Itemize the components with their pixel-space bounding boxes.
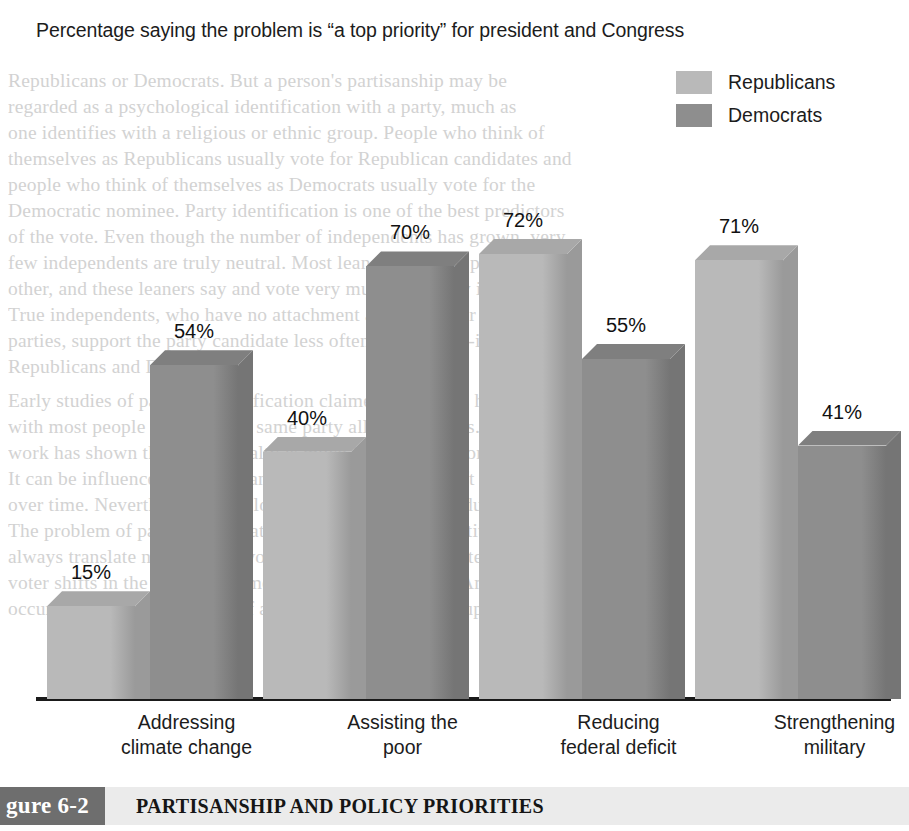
bar-democrats-3 xyxy=(798,446,886,699)
category-label-line: poor xyxy=(303,735,503,760)
bar-value-label: 72% xyxy=(463,209,583,232)
bar-front-face xyxy=(366,266,454,699)
category-label-line: climate change xyxy=(87,735,287,760)
bar-chart-plot-area: 15%40%72%71%54%70%55%41% xyxy=(0,0,909,705)
bar-side-face xyxy=(454,251,469,699)
category-label-line: Assisting the xyxy=(303,710,503,735)
bar-republicans-2 xyxy=(479,254,567,699)
bar-top-face xyxy=(582,344,685,359)
bar-top-face xyxy=(263,437,366,452)
bar-democrats-1 xyxy=(366,266,454,699)
category-label-line: Strengthening xyxy=(735,710,909,735)
bar-value-label: 41% xyxy=(782,401,902,424)
bar-republicans-3 xyxy=(695,260,783,699)
figure-number-tag: gure 6-2 xyxy=(0,787,105,825)
category-label-2: Reducingfederal deficit xyxy=(519,710,719,760)
bar-value-label: 71% xyxy=(679,215,799,238)
category-label-line: Addressing xyxy=(87,710,287,735)
bar-front-face xyxy=(695,260,783,699)
bar-top-face xyxy=(47,591,150,606)
bar-top-face xyxy=(150,350,253,365)
category-label-0: Addressingclimate change xyxy=(87,710,287,760)
bar-top-face xyxy=(479,239,582,254)
category-label-1: Assisting thepoor xyxy=(303,710,503,760)
bar-front-face xyxy=(479,254,567,699)
category-label-line: Reducing xyxy=(519,710,719,735)
bar-side-face xyxy=(135,591,150,699)
bar-front-face xyxy=(150,365,238,699)
figure-caption-title: PARTISANSHIP AND POLICY PRIORITIES xyxy=(136,787,544,825)
bar-side-face xyxy=(783,245,798,699)
bar-front-face xyxy=(582,359,670,699)
bar-value-label: 70% xyxy=(350,221,470,244)
bar-side-face xyxy=(670,344,685,699)
category-label-3: Strengtheningmilitary xyxy=(735,710,909,760)
category-label-line: federal deficit xyxy=(519,735,719,760)
bar-democrats-2 xyxy=(582,359,670,699)
bar-side-face xyxy=(351,437,366,699)
bar-top-face xyxy=(366,251,469,266)
bar-value-label: 54% xyxy=(134,320,254,343)
bar-republicans-0 xyxy=(47,606,135,699)
category-label-line: military xyxy=(735,735,909,760)
figure-6-2: Percentage saying the problem is “a top … xyxy=(0,0,909,831)
bar-side-face xyxy=(886,431,901,699)
bar-front-face xyxy=(47,606,135,699)
bar-front-face xyxy=(263,452,351,699)
bar-value-label: 40% xyxy=(247,407,367,430)
bar-top-face xyxy=(798,431,901,446)
bar-front-face xyxy=(798,446,886,699)
bar-top-face xyxy=(695,245,798,260)
bar-value-label: 55% xyxy=(566,314,686,337)
bar-republicans-1 xyxy=(263,452,351,699)
bar-value-label: 15% xyxy=(31,561,151,584)
bar-democrats-0 xyxy=(150,365,238,699)
bar-side-face xyxy=(238,350,253,699)
bar-side-face xyxy=(567,239,582,699)
